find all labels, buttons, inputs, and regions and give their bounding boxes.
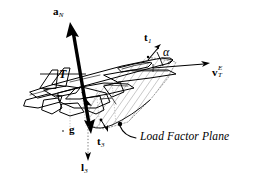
thrust-axis-1-vector — [148, 44, 161, 60]
l3-arrowhead — [85, 152, 91, 161]
plane-caption-leader — [118, 122, 136, 138]
label-load-factor-plane: Load Factor Plane — [140, 131, 229, 143]
an-g-shaft — [73, 31, 89, 124]
t3-node — [100, 119, 103, 122]
label-gravity: g — [69, 124, 75, 135]
label-thrust-axis-1: t1 — [144, 32, 151, 45]
label-angle-of-attack: α — [163, 46, 169, 58]
label-lift-axis-3: l3 — [81, 162, 88, 175]
t3-arrowhead — [103, 125, 108, 132]
thrust-axis-3-vector — [100, 119, 108, 132]
load-factor-plane-hatching — [60, 40, 200, 140]
t1-node — [157, 47, 159, 49]
label-velocity: vET — [212, 64, 222, 78]
exhaust-nozzle — [60, 103, 84, 116]
figure-canvas — [0, 0, 262, 187]
label-normal-acceleration: aN — [53, 6, 63, 19]
label-thrust: T — [59, 68, 66, 80]
t1-shaft — [148, 48, 158, 60]
load-factor-plane-figure: aN T t1 α vET g t3 l3 Load Factor Plane — [0, 0, 262, 187]
plane-corner-dot-top — [147, 56, 149, 58]
label-thrust-axis-3: t3 — [97, 136, 104, 149]
load-factor-plane-region — [60, 40, 200, 140]
plane-caption-leader-curve — [120, 126, 136, 138]
acceleration-gravity-axis — [66, 22, 95, 134]
plane-corner-dot-left — [62, 130, 64, 132]
